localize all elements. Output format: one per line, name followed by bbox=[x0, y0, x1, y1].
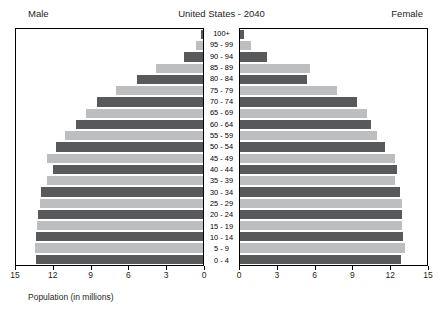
male-bar bbox=[97, 97, 203, 106]
bar-row bbox=[240, 119, 427, 130]
male-bar bbox=[65, 131, 203, 140]
age-group-label: 95 - 99 bbox=[204, 39, 239, 50]
bar-row bbox=[16, 242, 203, 253]
age-group-label: 15 - 19 bbox=[204, 221, 239, 232]
male-bar bbox=[53, 165, 203, 174]
age-group-label: 0 - 4 bbox=[204, 255, 239, 266]
bar-row bbox=[16, 220, 203, 231]
male-bar bbox=[201, 30, 203, 39]
age-group-label: 90 - 94 bbox=[204, 51, 239, 62]
age-group-label: 25 - 29 bbox=[204, 198, 239, 209]
male-bar bbox=[36, 232, 203, 241]
male-bar bbox=[36, 255, 203, 264]
female-bar bbox=[240, 64, 310, 73]
female-bar bbox=[240, 176, 395, 185]
male-bar bbox=[76, 120, 203, 129]
axis-tick-label: 3 bbox=[274, 270, 279, 280]
male-bar bbox=[38, 210, 203, 219]
bar-row bbox=[16, 29, 203, 40]
bar-row bbox=[240, 242, 427, 253]
male-bar bbox=[196, 41, 203, 50]
female-bar bbox=[240, 86, 337, 95]
bar-row bbox=[240, 175, 427, 186]
bar-row bbox=[240, 96, 427, 107]
age-group-label: 70 - 74 bbox=[204, 96, 239, 107]
male-bar bbox=[47, 176, 203, 185]
bar-row bbox=[240, 209, 427, 220]
bar-row bbox=[16, 51, 203, 62]
bar-row bbox=[240, 40, 427, 51]
age-group-label: 10 - 14 bbox=[204, 232, 239, 243]
bar-row bbox=[16, 231, 203, 242]
age-group-label: 20 - 24 bbox=[204, 209, 239, 220]
age-group-label: 45 - 49 bbox=[204, 153, 239, 164]
bar-row bbox=[240, 51, 427, 62]
age-group-labels: 100+95 - 9990 - 9485 - 8980 - 8475 - 797… bbox=[204, 28, 239, 266]
age-group-label: 85 - 89 bbox=[204, 62, 239, 73]
female-bar bbox=[240, 109, 367, 118]
female-bar bbox=[240, 30, 244, 39]
axis-tick-label: 9 bbox=[350, 270, 355, 280]
male-bar bbox=[56, 142, 203, 151]
axis-tick-label: 9 bbox=[88, 270, 93, 280]
bar-row bbox=[240, 198, 427, 209]
axis-tick-label: 0 bbox=[237, 270, 242, 280]
male-bar bbox=[116, 86, 203, 95]
chart-header: Male United States - 2040 Female bbox=[0, 8, 443, 22]
axis-tick-label: 12 bbox=[385, 270, 394, 280]
female-bar bbox=[240, 187, 400, 196]
female-bar bbox=[240, 210, 402, 219]
male-bar bbox=[156, 64, 203, 73]
bar-row bbox=[16, 175, 203, 186]
male-bar bbox=[35, 243, 203, 252]
bar-row bbox=[240, 220, 427, 231]
bar-row bbox=[240, 231, 427, 242]
age-group-label: 50 - 54 bbox=[204, 141, 239, 152]
female-bar bbox=[240, 243, 405, 252]
bar-row bbox=[16, 108, 203, 119]
bar-row bbox=[240, 141, 427, 152]
bar-row bbox=[240, 108, 427, 119]
bar-row bbox=[16, 186, 203, 197]
bar-row bbox=[240, 153, 427, 164]
female-bar bbox=[240, 255, 401, 264]
axis-tick-label: 15 bbox=[423, 270, 432, 280]
bar-row bbox=[16, 96, 203, 107]
female-bar bbox=[240, 75, 307, 84]
female-bar bbox=[240, 41, 251, 50]
male-bar bbox=[137, 75, 203, 84]
bar-row bbox=[240, 74, 427, 85]
population-pyramid-chart: Male United States - 2040 Female 100+95 … bbox=[0, 0, 443, 315]
bar-row bbox=[16, 74, 203, 85]
female-bar bbox=[240, 232, 403, 241]
age-group-label: 100+ bbox=[204, 28, 239, 39]
female-bar bbox=[240, 154, 395, 163]
bar-row bbox=[16, 130, 203, 141]
bar-row bbox=[16, 40, 203, 51]
axis-tick-label: 15 bbox=[10, 270, 19, 280]
female-bar bbox=[240, 52, 267, 61]
female-side-label: Female bbox=[391, 8, 423, 19]
bar-row bbox=[16, 198, 203, 209]
age-group-label: 75 - 79 bbox=[204, 85, 239, 96]
axis-tick-label: 6 bbox=[126, 270, 131, 280]
male-bar bbox=[40, 199, 203, 208]
age-group-label: 55 - 59 bbox=[204, 130, 239, 141]
bar-row bbox=[16, 153, 203, 164]
male-x-axis: 15129630 bbox=[15, 266, 204, 284]
male-panel bbox=[15, 28, 204, 266]
bar-row bbox=[16, 85, 203, 96]
female-bar-rows bbox=[240, 29, 427, 265]
axis-tick-label: 0 bbox=[202, 270, 207, 280]
female-panel bbox=[239, 28, 428, 266]
female-bar bbox=[240, 120, 371, 129]
bar-row bbox=[16, 141, 203, 152]
bar-row bbox=[240, 29, 427, 40]
bar-row bbox=[16, 119, 203, 130]
age-group-label: 5 - 9 bbox=[204, 243, 239, 254]
bar-row bbox=[240, 164, 427, 175]
bar-row bbox=[16, 254, 203, 265]
female-bar bbox=[240, 97, 357, 106]
bar-row bbox=[240, 186, 427, 197]
axis-tick-label: 3 bbox=[164, 270, 169, 280]
